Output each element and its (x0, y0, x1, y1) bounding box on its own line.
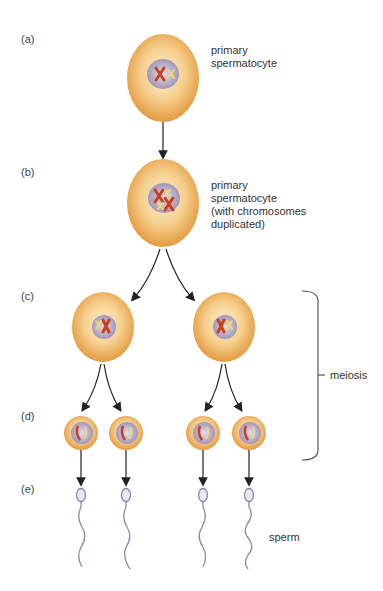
cell-secondary-spermatocyte-left (72, 292, 134, 362)
stage-label-a: (a) (21, 33, 34, 45)
description-line: spermatocyte (211, 57, 277, 70)
meiosis-label: meiosis (330, 369, 367, 382)
arrow-b-to-c-left (134, 249, 160, 298)
description-line: spermatocyte (211, 192, 306, 205)
spermatid (109, 416, 143, 450)
sperm (245, 489, 254, 570)
cell-primary-spermatocyte-duplicated (127, 159, 199, 247)
sperm (199, 489, 208, 568)
stage-label-c: (c) (21, 290, 34, 302)
sperm-label: sperm (269, 531, 300, 544)
description-line: primary (211, 44, 277, 57)
spermatid (64, 416, 98, 450)
spermatid (232, 416, 266, 450)
cell-secondary-spermatocyte-right (193, 292, 255, 362)
sperm (77, 489, 86, 568)
sperm (122, 489, 131, 570)
description-line: (with chromosomes (211, 205, 306, 218)
meiosis-bracket (302, 291, 318, 460)
spermatogenesis-diagram (0, 0, 383, 591)
cell-primary-spermatocyte (127, 34, 199, 122)
arrow-c-to-d (207, 364, 222, 408)
stage-label-e: (e) (21, 483, 34, 495)
stage-label-d: (d) (21, 410, 34, 422)
description-line: primary (211, 179, 306, 192)
description-a: primary spermatocyte (211, 44, 277, 70)
arrow-b-to-c-right (166, 249, 192, 298)
stage-label-b: (b) (21, 166, 34, 178)
nucleus (147, 59, 179, 89)
description-line: duplicated) (211, 218, 306, 231)
spermatid (186, 416, 220, 450)
arrow-c-to-d (104, 364, 119, 408)
description-b: primary spermatocyte (with chromosomes d… (211, 179, 306, 231)
arrow-c-to-d (225, 364, 240, 408)
arrow-c-to-d (84, 364, 101, 408)
